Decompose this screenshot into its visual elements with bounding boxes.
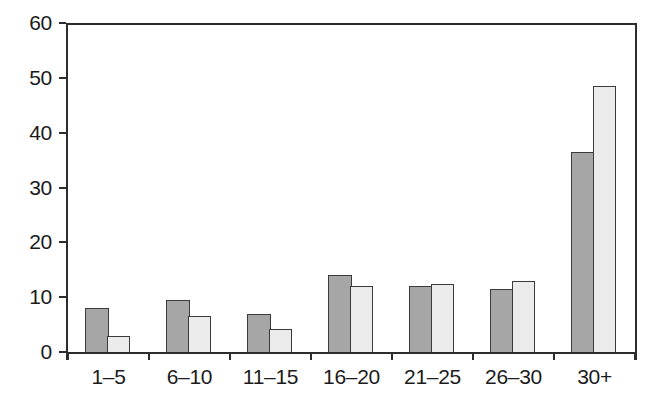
y-tick xyxy=(59,351,66,353)
x-tick-label: 16–20 xyxy=(311,366,392,388)
x-tick xyxy=(148,352,150,360)
y-tick-label: 60 xyxy=(0,12,52,34)
x-tick xyxy=(391,352,393,360)
x-tick-label: 21–25 xyxy=(392,366,473,388)
x-tick xyxy=(472,352,474,360)
x-tick-label: 6–10 xyxy=(149,366,230,388)
y-tick xyxy=(59,187,66,189)
y-tick-label: 0 xyxy=(0,341,52,363)
y-tick-label: 10 xyxy=(0,286,52,308)
x-tick xyxy=(553,352,555,360)
x-tick-label: 11–15 xyxy=(230,366,311,388)
bar-dark-gray-bars xyxy=(409,286,433,352)
bar-dark-gray-bars xyxy=(490,289,514,352)
y-tick xyxy=(59,296,66,298)
bar-light-gray-bars xyxy=(188,316,212,352)
bar-light-gray-bars xyxy=(512,281,536,352)
x-axis xyxy=(66,352,637,354)
x-tick xyxy=(310,352,312,360)
bar-dark-gray-bars xyxy=(571,152,595,352)
y-tick-label: 30 xyxy=(0,177,52,199)
y-tick xyxy=(59,77,66,79)
x-tick xyxy=(634,352,636,360)
y-tick-label: 40 xyxy=(0,122,52,144)
bar-light-gray-bars xyxy=(107,336,131,352)
bar-dark-gray-bars xyxy=(166,300,190,352)
y-tick-label: 20 xyxy=(0,231,52,253)
x-tick xyxy=(229,352,231,360)
bar-chart: 01020304050601–56–1011–1516–2021–2526–30… xyxy=(0,0,662,402)
bar-light-gray-bars xyxy=(350,286,374,352)
bar-dark-gray-bars xyxy=(85,308,109,352)
bar-light-gray-bars xyxy=(269,329,293,352)
x-tick-label: 30+ xyxy=(554,366,635,388)
x-tick-label: 26–30 xyxy=(473,366,554,388)
bar-light-gray-bars xyxy=(593,86,617,352)
bar-light-gray-bars xyxy=(431,284,455,352)
y-tick-label: 50 xyxy=(0,67,52,89)
x-tick xyxy=(67,352,69,360)
bar-dark-gray-bars xyxy=(247,314,271,352)
x-tick-label: 1–5 xyxy=(68,366,149,388)
y-axis xyxy=(66,23,68,360)
plot-border-top xyxy=(66,23,637,25)
y-tick xyxy=(59,241,66,243)
bar-dark-gray-bars xyxy=(328,275,352,352)
plot-border-right xyxy=(635,23,637,360)
y-tick xyxy=(59,132,66,134)
y-tick xyxy=(59,22,66,24)
